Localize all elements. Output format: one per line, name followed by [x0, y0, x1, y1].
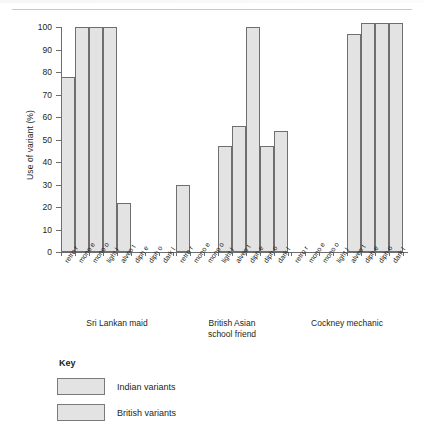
y-tick-label: 40 — [12, 158, 52, 167]
y-tick-label: 50 — [12, 136, 52, 145]
legend-item: British variants — [57, 404, 287, 421]
y-tick-label: 10 — [12, 226, 52, 235]
bar — [389, 23, 403, 253]
bar — [61, 77, 75, 253]
bar — [260, 146, 274, 252]
bar — [246, 27, 260, 252]
y-tick-label: 60 — [12, 113, 52, 122]
y-tick-label: 30 — [12, 181, 52, 190]
group-caption-line: school friend — [162, 329, 302, 340]
y-tick — [56, 50, 61, 51]
x-tick — [61, 252, 62, 256]
x-tick — [291, 252, 292, 256]
group-caption: Cockney mechanic — [277, 318, 417, 329]
y-tick — [56, 72, 61, 73]
legend-title: Key — [59, 358, 287, 368]
legend: Key Indian variantsBritish variants — [57, 358, 287, 430]
bar — [103, 27, 117, 252]
y-tick-label: 0 — [12, 248, 52, 257]
bar-chart: Use of variant (%) 010203040506070809010… — [0, 0, 424, 300]
legend-swatch — [57, 378, 105, 395]
legend-item: Indian variants — [57, 378, 287, 395]
legend-rows: Indian variantsBritish variants — [57, 378, 287, 421]
legend-label: British variants — [117, 408, 176, 418]
bar — [218, 146, 232, 252]
bar — [274, 131, 288, 253]
bar — [361, 23, 375, 253]
y-tick-label: 100 — [12, 23, 52, 32]
bar — [375, 23, 389, 253]
bar — [232, 126, 246, 252]
y-tick-label: 90 — [12, 46, 52, 55]
group-caption-line: Cockney mechanic — [277, 318, 417, 329]
legend-swatch — [57, 404, 105, 421]
y-tick-label: 70 — [12, 91, 52, 100]
y-tick-label: 20 — [12, 203, 52, 212]
bar — [347, 34, 361, 252]
y-tick — [56, 27, 61, 28]
x-tick — [176, 252, 177, 256]
bar — [89, 27, 103, 252]
y-tick-label: 80 — [12, 68, 52, 77]
legend-label: Indian variants — [117, 382, 176, 392]
x-category-label: retro r — [293, 245, 309, 264]
bar — [176, 185, 190, 253]
bar — [75, 27, 89, 252]
